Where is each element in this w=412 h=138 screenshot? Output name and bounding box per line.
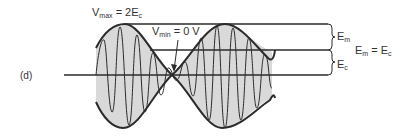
vmin-value: = 0 V xyxy=(171,25,200,37)
equality-rhs: E xyxy=(381,44,388,56)
ec-brace xyxy=(328,50,335,75)
vmin-label: Vmin = 0 V xyxy=(152,26,200,38)
panel-label: (d) xyxy=(20,71,32,81)
vmax-label: Vmax = 2Ec xyxy=(92,7,142,19)
vmin-subscript: min xyxy=(159,31,170,38)
panel-label-text: (d) xyxy=(20,70,32,81)
equality-label: Em = Ec xyxy=(355,45,392,57)
ec-brace-label: Ec xyxy=(337,59,348,71)
equality-rhs-subscript: c xyxy=(388,50,392,57)
ec-subscript: c xyxy=(344,64,348,71)
am-waveform-diagram xyxy=(0,0,412,138)
vmax-subscript: max xyxy=(99,12,112,19)
em-brace xyxy=(328,24,335,50)
em-subscript: m xyxy=(344,36,350,43)
equality-sign: = xyxy=(368,44,381,56)
vmax-value: = 2E xyxy=(113,6,139,18)
em-brace-label: Em xyxy=(337,31,350,43)
vmax-value-subscript: c xyxy=(139,12,143,19)
